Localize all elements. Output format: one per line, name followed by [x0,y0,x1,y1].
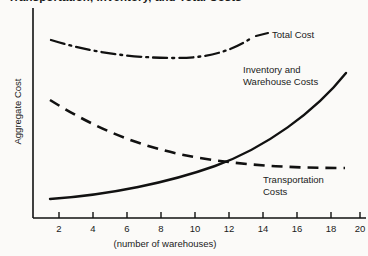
annotation-inventory-warehouse: Inventory and Warehouse Costs [243,64,318,87]
x-tick-label: 10 [185,223,205,234]
x-tick-label: 20 [350,223,368,234]
figure-container: Transportation, Inventory, and Total Cos… [0,0,368,256]
series-inventory-warehouse-line [50,100,345,168]
x-tick-label: 18 [321,223,341,234]
annotation-transportation-line1: Transportation [263,174,324,186]
total-cost-leader-line [256,33,268,36]
annotation-transportation: Transportation Costs [263,174,324,197]
x-tick-marks [59,212,360,218]
x-tick-label: 2 [49,223,69,234]
y-axis-label: Aggregate Cost [12,62,23,162]
x-tick-label: 12 [219,223,239,234]
annotation-inventory-line1: Inventory and [243,64,318,76]
x-tick-label: 16 [287,223,307,234]
annotation-transportation-line2: Costs [263,186,324,198]
annotation-inventory-line2: Warehouse Costs [243,76,318,88]
annotation-total-cost-text: Total Cost [272,29,314,40]
x-tick-label: 6 [117,223,137,234]
x-tick-label: 4 [83,223,103,234]
x-tick-label: 14 [253,223,273,234]
x-tick-label: 8 [151,223,171,234]
series-total-cost-line [51,37,253,58]
x-axis-label: (number of warehouses) [0,238,330,249]
annotation-total-cost: Total Cost [272,29,314,41]
